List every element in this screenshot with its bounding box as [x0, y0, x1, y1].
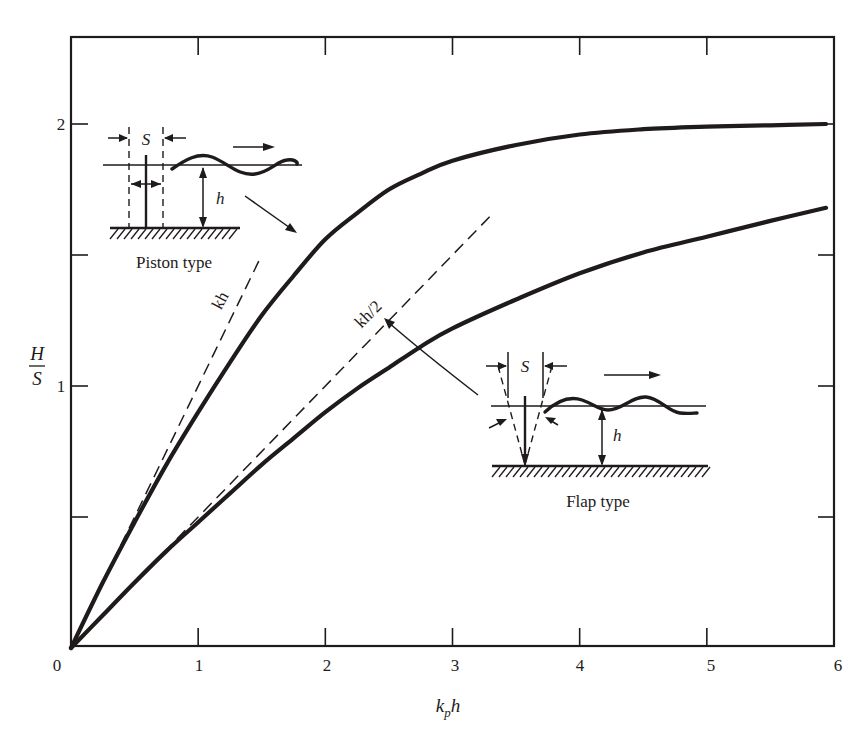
x-tick-label-0: 0 [53, 656, 62, 675]
x-tick-label-4: 4 [576, 656, 585, 675]
y-axis-label-denominator: S [32, 368, 42, 389]
asymptote-label-kh-half: kh/2 [351, 297, 386, 332]
piston-stroke-label: S [142, 130, 151, 149]
svg-text:kph: kph [436, 695, 460, 720]
piston-type-curve [71, 124, 826, 648]
wavemaker-theory-chart: 0 1 2 3 4 5 6 1 2 kph H S kh kh/2 [0, 0, 862, 731]
flap-depth-label: h [613, 426, 622, 445]
flap-extent-left [498, 366, 525, 465]
flap-extent-right [525, 366, 552, 465]
x-tick-label-6: 6 [834, 656, 843, 675]
y-axis-label-numerator: H [29, 343, 45, 364]
flap-wave-icon [545, 397, 697, 413]
piston-depth-label: h [216, 189, 225, 208]
y-tick-label-2: 2 [57, 115, 66, 134]
y-tick-labels: 1 2 [57, 115, 66, 396]
y-tick-label-1: 1 [57, 377, 66, 396]
x-axis-label-h: h [451, 695, 461, 716]
x-axis-label: kph [436, 695, 460, 720]
flap-type-inset: S h Flap type [486, 352, 710, 511]
piston-type-title: Piston type [136, 253, 212, 272]
piston-leader-arrow [245, 196, 297, 233]
x-tick-label-3: 3 [451, 656, 460, 675]
piston-bed-hatching [110, 229, 237, 239]
flap-wave-direction-arrow-icon [649, 371, 661, 379]
x-tick-labels: 0 1 2 3 4 5 6 [53, 656, 843, 675]
y-axis-label: H S [29, 343, 45, 389]
x-tick-label-2: 2 [323, 656, 332, 675]
x-tick-label-1: 1 [195, 656, 204, 675]
flap-type-curve [71, 208, 826, 648]
flap-type-title: Flap type [566, 492, 630, 511]
flap-bed-hatching [492, 467, 710, 477]
piston-wave-direction-arrow-icon [263, 143, 275, 151]
piston-type-inset: S h Piston type [103, 127, 302, 272]
flap-leader-arrow [384, 318, 478, 395]
flap-stroke-label: S [521, 357, 530, 376]
x-tick-label-5: 5 [707, 656, 716, 675]
asymptote-label-kh: kh [208, 288, 233, 312]
